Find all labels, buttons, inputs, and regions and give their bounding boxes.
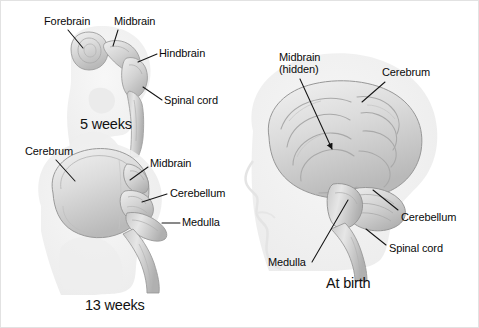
- diagram-artwork: [1, 1, 479, 328]
- label-hindbrain-5-weeks: Hindbrain: [159, 48, 205, 60]
- label-forebrain-5-weeks: Forebrain: [44, 16, 90, 28]
- label-midbrain-at-birth-line2: (hidden): [279, 63, 319, 75]
- label-medulla-13-weeks: Medulla: [182, 217, 220, 229]
- label-cerebellum-13-weeks: Cerebellum: [170, 188, 225, 200]
- label-spinal-cord-5-weeks: Spinal cord: [164, 95, 218, 107]
- caption-five-weeks: 5 weeks: [80, 116, 132, 132]
- forebrain-structure: [71, 32, 108, 70]
- label-midbrain-5-weeks: Midbrain: [114, 16, 155, 28]
- cerebrum-structure: [268, 81, 422, 199]
- label-spinal-cord-at-birth: Spinal cord: [389, 243, 443, 255]
- label-midbrain-13-weeks: Midbrain: [150, 158, 191, 170]
- brain-development-figure: Forebrain Midbrain Hindbrain Spinal cord…: [0, 0, 479, 328]
- label-medulla-at-birth: Medulla: [268, 257, 306, 269]
- caption-thirteen-weeks: 13 weeks: [85, 297, 145, 313]
- label-midbrain-at-birth-line1: Midbrain: [279, 51, 320, 63]
- panel-five-weeks-art: [67, 26, 162, 161]
- label-midbrain-at-birth: Midbrain (hidden): [279, 52, 320, 75]
- label-cerebrum-at-birth: Cerebrum: [382, 67, 430, 79]
- caption-at-birth: At birth: [326, 275, 370, 291]
- leader-spinal-cord: [143, 87, 162, 100]
- label-cerebellum-at-birth: Cerebellum: [401, 212, 456, 224]
- label-cerebrum-13-weeks: Cerebrum: [25, 146, 73, 158]
